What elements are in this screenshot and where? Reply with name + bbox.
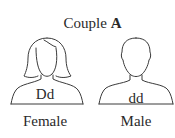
title-letter: A (111, 15, 122, 31)
title-prefix: Couple (64, 15, 111, 31)
female-label: Female (10, 113, 80, 129)
diagram-title: Couple A (0, 14, 175, 32)
male-label: Male (101, 113, 171, 129)
male-genotype: dd (106, 90, 166, 106)
female-genotype: Dd (15, 86, 75, 102)
